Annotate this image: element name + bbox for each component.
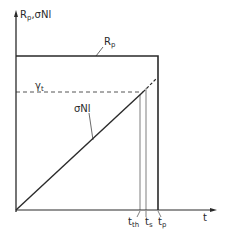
sigma-nl-label: σNl bbox=[74, 104, 91, 114]
x-axis-arrow-icon bbox=[210, 208, 217, 212]
t-p-label: tp bbox=[158, 217, 166, 229]
rp-label: Rp bbox=[104, 37, 115, 49]
gamma-t-label: γt bbox=[35, 81, 44, 93]
sigma-nl-leader bbox=[89, 113, 93, 140]
sigma-nl-extrapolation bbox=[143, 78, 157, 92]
x-axis-label: t bbox=[203, 213, 207, 223]
t-th-label: tth bbox=[128, 217, 139, 229]
t-s-label: ts bbox=[145, 217, 153, 229]
y-axis-label: Rp,σNl bbox=[20, 10, 51, 22]
rp-leader bbox=[96, 47, 103, 56]
diagram-canvas bbox=[0, 0, 226, 240]
y-axis-arrow-icon bbox=[14, 10, 18, 17]
